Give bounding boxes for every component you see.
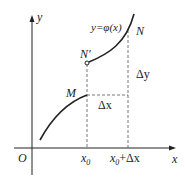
- curve-lower: [40, 95, 87, 140]
- tick-x0-sub: 0: [86, 158, 90, 167]
- y-axis-label: y: [37, 11, 42, 23]
- x-axis-label: x: [172, 153, 177, 165]
- open-point-n-prime: [85, 61, 89, 65]
- point-n-label: N: [136, 25, 144, 37]
- delta-y-label: Δy: [136, 68, 150, 80]
- y-axis-arrow-icon: [30, 15, 35, 22]
- x-axis-arrow-icon: [169, 146, 176, 151]
- tick-x0-plus-dx: x0+Δx: [110, 152, 140, 167]
- delta-x-label: Δx: [98, 99, 112, 111]
- function-label: y=φ(x): [91, 22, 122, 33]
- origin-label: O: [18, 152, 27, 164]
- point-m-label: M: [66, 87, 76, 99]
- tick-x0: x0: [81, 152, 90, 167]
- tick-x0dx-rest: +Δx: [119, 151, 139, 165]
- diagram: y x O y=φ(x) N N' M Δx Δy x0 x0+Δx: [0, 0, 185, 182]
- point-n-prime-label: N': [80, 48, 91, 60]
